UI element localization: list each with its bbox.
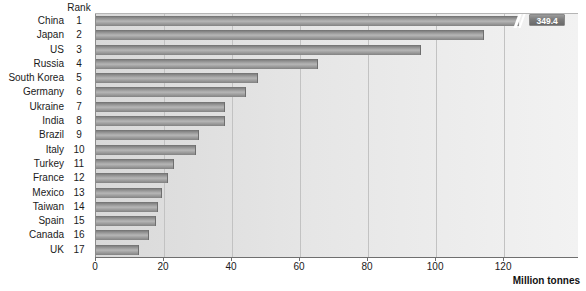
rank-value: 13: [68, 186, 90, 200]
x-tick-label: 0: [75, 261, 115, 272]
x-tick-label: 120: [483, 261, 523, 272]
category-label: Japan: [0, 28, 68, 42]
bar[interactable]: [96, 30, 484, 40]
rank-value: 2: [68, 28, 90, 42]
rank-value: 15: [68, 214, 90, 228]
category-label: Turkey: [0, 157, 68, 171]
rank-value: 3: [68, 43, 90, 57]
clipped-title-remnant: [150, 0, 450, 5]
rank-value: 1: [68, 14, 90, 28]
bar[interactable]: [96, 130, 199, 140]
bar-row: [96, 200, 578, 214]
category-label: Taiwan: [0, 200, 68, 214]
bar-row: [96, 228, 578, 242]
rank-value: 11: [68, 157, 90, 171]
x-tick-label: 60: [279, 261, 319, 272]
bar-row: [96, 43, 578, 57]
category-label: South Korea: [0, 71, 68, 85]
bar-row: [96, 243, 578, 257]
rank-value: 7: [68, 100, 90, 114]
bar[interactable]: [96, 102, 225, 112]
x-axis-title: Million tonnes: [513, 275, 580, 286]
axis-break-icon: [512, 14, 526, 28]
bar[interactable]: [96, 173, 168, 183]
category-label: Italy: [0, 143, 68, 157]
category-label: Ukraine: [0, 100, 68, 114]
bar[interactable]: [96, 159, 174, 169]
rank-column: 1234567891011121314151617: [68, 14, 90, 257]
bar[interactable]: [96, 16, 519, 26]
rank-value: 6: [68, 85, 90, 99]
bar[interactable]: [96, 73, 258, 83]
x-tick-label: 80: [347, 261, 387, 272]
bar-row: [96, 71, 578, 85]
category-label: UK: [0, 243, 68, 257]
rank-value: 17: [68, 243, 90, 257]
bar[interactable]: [96, 87, 246, 97]
category-label: Brazil: [0, 128, 68, 142]
category-label: India: [0, 114, 68, 128]
category-label: Mexico: [0, 186, 68, 200]
bar[interactable]: [96, 230, 149, 240]
bar[interactable]: [96, 59, 318, 69]
bar[interactable]: [96, 216, 156, 226]
rank-value: 9: [68, 128, 90, 142]
category-label: US: [0, 43, 68, 57]
plot-area: 349.4: [95, 14, 578, 257]
category-axis-labels: ChinaJapanUSRussiaSouth KoreaGermanyUkra…: [0, 14, 68, 257]
bar-chart: Rank ChinaJapanUSRussiaSouth KoreaGerman…: [0, 0, 586, 291]
bar[interactable]: [96, 245, 139, 255]
category-label: Russia: [0, 57, 68, 71]
rank-value: 16: [68, 228, 90, 242]
bar-row: [96, 171, 578, 185]
bar-row: [96, 214, 578, 228]
bar-rows: 349.4: [96, 14, 578, 257]
category-label: Germany: [0, 85, 68, 99]
bar-row: [96, 28, 578, 42]
x-tick-label: 40: [211, 261, 251, 272]
bar[interactable]: [96, 188, 162, 198]
bar[interactable]: [96, 45, 421, 55]
bar-row: [96, 85, 578, 99]
category-label: France: [0, 171, 68, 185]
bar-row: [96, 100, 578, 114]
x-tick-label: 100: [415, 261, 455, 272]
bar-row: [96, 186, 578, 200]
bar-row: [96, 57, 578, 71]
rank-value: 14: [68, 200, 90, 214]
bar-row: [96, 157, 578, 171]
x-tick-label: 20: [143, 261, 183, 272]
rank-column-header: Rank: [64, 2, 94, 13]
bar[interactable]: [96, 202, 158, 212]
rank-value: 8: [68, 114, 90, 128]
bar-row: 349.4: [96, 14, 578, 28]
bar[interactable]: [96, 116, 225, 126]
bar[interactable]: [96, 145, 196, 155]
rank-value: 10: [68, 143, 90, 157]
rank-value: 5: [68, 71, 90, 85]
rank-value: 12: [68, 171, 90, 185]
category-label: Spain: [0, 214, 68, 228]
rank-value: 4: [68, 57, 90, 71]
bar-row: [96, 128, 578, 142]
bar-row: [96, 143, 578, 157]
value-badge: 349.4: [529, 14, 564, 26]
category-label: Canada: [0, 228, 68, 242]
category-label: China: [0, 14, 68, 28]
x-axis-line: [95, 257, 578, 258]
bar-row: [96, 114, 578, 128]
